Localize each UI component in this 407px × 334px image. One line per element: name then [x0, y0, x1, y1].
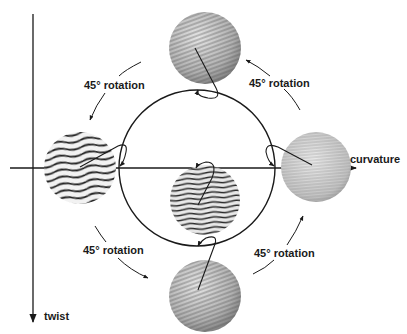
sphere-center	[170, 165, 240, 235]
rotation-label-lower-left: 45° rotation	[83, 245, 144, 256]
twist-axis-label: twist	[44, 311, 69, 322]
rotation-label-upper-left: 45° rotation	[84, 80, 145, 91]
rotation-label-lower-right: 45° rotation	[254, 248, 315, 259]
rotation-arrow-upper-left	[90, 62, 141, 120]
rotation-arrow-lower-right	[253, 216, 303, 274]
sphere-left	[44, 132, 116, 204]
sphere-right	[281, 132, 351, 202]
sphere-top	[169, 12, 241, 84]
curvature-axis-label: curvature	[350, 154, 400, 165]
twist-curvature-diagram	[0, 0, 407, 334]
rotation-label-upper-right: 45° rotation	[249, 78, 310, 89]
